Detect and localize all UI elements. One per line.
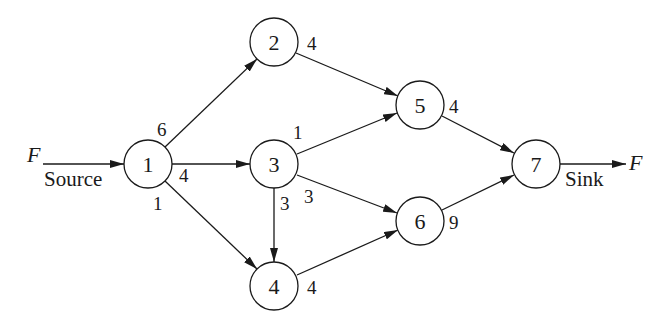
edge-1-4 [165, 181, 257, 269]
node-7-label: 7 [531, 152, 542, 177]
node-4-label: 4 [269, 274, 280, 299]
edge-1-3-label: 4 [179, 165, 189, 186]
node-1: 1 [124, 140, 172, 188]
edge-4-6 [297, 230, 398, 275]
node-3-label: 3 [269, 152, 280, 177]
sink-label: Sink [565, 167, 604, 191]
node-2-weight: 4 [307, 33, 317, 54]
node-6: 6 [396, 197, 444, 245]
edge-5-7 [442, 116, 514, 153]
node-3: 3 [250, 140, 298, 188]
edge-2-5 [296, 53, 398, 96]
sink-flow-symbol: F [628, 150, 643, 175]
node-2: 2 [250, 18, 298, 66]
node-2-label: 2 [269, 30, 280, 55]
edge-3-4-label: 3 [280, 193, 290, 214]
source-label: Source [44, 167, 102, 191]
node-4-weight: 4 [307, 277, 317, 298]
node-5-label: 5 [415, 93, 426, 118]
edge-3-6-label: 3 [304, 186, 314, 207]
node-1-label: 1 [143, 152, 154, 177]
network-graph: F Source F Sink 1 2 3 4 [0, 0, 670, 331]
edge-3-5 [297, 113, 397, 154]
node-4: 4 [250, 262, 298, 310]
edge-1-2 [165, 59, 257, 147]
edge-1-4-label: 1 [153, 193, 163, 214]
node-5: 5 [396, 81, 444, 129]
node-7: 7 [512, 140, 560, 188]
node-6-weight: 9 [449, 212, 459, 233]
node-5-weight: 4 [449, 96, 459, 117]
edge-3-5-label: 1 [293, 122, 303, 143]
edge-6-7 [442, 175, 514, 210]
edge-1-2-label: 6 [157, 119, 167, 140]
source-flow-symbol: F [26, 142, 41, 167]
network-diagram: F Source F Sink 1 2 3 4 [0, 0, 670, 331]
node-6-label: 6 [415, 209, 426, 234]
